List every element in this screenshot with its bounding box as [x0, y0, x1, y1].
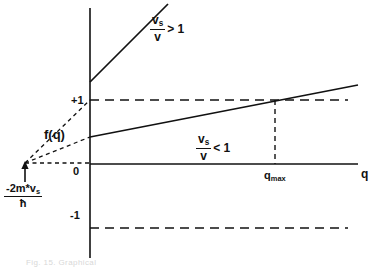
qmax-base: q: [264, 169, 271, 181]
intercept-denominator: ħ: [18, 197, 29, 209]
x-tick-label-qmax: qmax: [264, 170, 286, 182]
shallow-relation: < 1: [213, 142, 230, 154]
figure-caption-fragment: Fig. 15. Graphical: [26, 258, 96, 267]
fraction-intercept: -2m*vs ħ: [4, 183, 42, 209]
shallow-numerator: v: [198, 132, 205, 146]
intercept-numerator-sub: s: [36, 187, 40, 196]
steep-denominator: v: [152, 30, 163, 43]
annotation-intercept-value: -2m*vs ħ: [4, 183, 42, 209]
y-tick-label-minus-one: -1: [70, 210, 80, 221]
annotation-function-label: f(q): [44, 128, 65, 141]
intercept-numerator: -2m*v: [6, 182, 36, 194]
qmax-sub: max: [271, 174, 286, 183]
shallow-numerator-sub: s: [205, 138, 210, 147]
steep-numerator: v: [152, 13, 159, 27]
fraction-vs-over-v-shallow: vs v: [196, 133, 211, 162]
figure-container: vs v > 1 vs v < 1 f(q) 0 +1 -1 qmax q -2…: [0, 0, 385, 272]
shallow-denominator: v: [198, 149, 209, 162]
fraction-vs-over-v-steep: vs v: [150, 14, 165, 43]
y-tick-label-plus-one: +1: [71, 95, 84, 106]
annotation-ratio-greater: vs v > 1: [150, 14, 184, 43]
annotation-ratio-less: vs v < 1: [196, 133, 230, 162]
steep-relation: > 1: [167, 23, 184, 35]
x-axis-name: q: [361, 168, 368, 180]
series-line-shallow: [90, 85, 358, 137]
axis-origin-label: 0: [73, 166, 79, 177]
steep-numerator-sub: s: [159, 19, 164, 28]
